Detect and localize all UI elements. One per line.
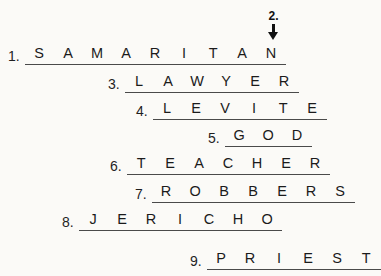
letter-cell: E (268, 181, 297, 203)
answer-row: 7.ROBBERS (135, 179, 355, 203)
letter-glyph: I (265, 248, 294, 268)
letter-glyph: B (239, 181, 268, 201)
letter-glyph: E (298, 98, 327, 118)
letter-cell: R (297, 181, 326, 203)
letter-glyph: N (257, 43, 286, 63)
answer-row-number: 3. (108, 76, 125, 93)
letter-glyph: A (228, 43, 257, 63)
letter-glyph: V (211, 98, 240, 118)
letter-cell: E (298, 98, 327, 120)
answer-row-number: 7. (135, 186, 152, 203)
letter-cell: S (323, 248, 352, 270)
letter-glyph: J (79, 209, 108, 229)
letter-glyph: T (199, 43, 228, 63)
letter-cell: I (166, 209, 195, 231)
letter-cell: O (253, 209, 282, 231)
letter-cell: E (241, 71, 270, 93)
letter-cell: R (137, 209, 166, 231)
letter-glyph: R (236, 248, 265, 268)
letter-cell: R (152, 181, 181, 203)
letter-glyph: L (153, 98, 182, 118)
letter-cell: D (283, 125, 312, 147)
letter-glyph: A (185, 153, 214, 173)
letter-glyph: E (156, 153, 185, 173)
answer-letters: LEVITE (153, 98, 327, 120)
letter-glyph: O (181, 181, 210, 201)
letter-cell: V (211, 98, 240, 120)
letter-cell: L (125, 71, 154, 93)
down-arrow-icon (268, 24, 279, 40)
letter-glyph: T (127, 153, 156, 173)
answer-letters: LAWYER (125, 71, 299, 93)
letter-glyph: E (272, 153, 301, 173)
letter-cell: G (225, 125, 254, 147)
answer-row-number: 6. (110, 158, 127, 175)
letter-glyph: G (225, 125, 254, 145)
letter-glyph: O (253, 209, 282, 229)
letter-cell: E (108, 209, 137, 231)
answer-letters: JERICHO (79, 209, 282, 231)
letter-cell: A (185, 153, 214, 175)
answer-letters: SAMARITAN (25, 43, 286, 65)
letter-cell: T (269, 98, 298, 120)
letter-cell: H (224, 209, 253, 231)
answer-letters: ROBBERS (152, 181, 355, 203)
letter-glyph: R (301, 153, 330, 173)
letter-cell: M (83, 43, 112, 65)
answer-letters: TEACHER (127, 153, 330, 175)
letter-glyph: R (141, 43, 170, 63)
letter-cell: A (228, 43, 257, 65)
answer-row: 4.LEVITE (136, 96, 327, 120)
letter-glyph: E (241, 71, 270, 91)
letter-glyph: C (195, 209, 224, 229)
clue-marker-label: 2. (268, 9, 278, 23)
letter-glyph: S (25, 43, 54, 63)
letter-glyph: E (268, 181, 297, 201)
letter-glyph: A (154, 71, 183, 91)
answer-row: 3.LAWYER (108, 69, 299, 93)
letter-glyph: R (137, 209, 166, 229)
letter-glyph: R (152, 181, 181, 201)
letter-glyph: L (125, 71, 154, 91)
letter-cell: E (156, 153, 185, 175)
letter-cell: E (294, 248, 323, 270)
letter-cell: I (240, 98, 269, 120)
answer-row: 6.TEACHER (110, 151, 330, 175)
letter-glyph: T (269, 98, 298, 118)
answer-row-number: 4. (136, 103, 153, 120)
letter-cell: B (210, 181, 239, 203)
letter-glyph: P (207, 248, 236, 268)
letter-cell: A (112, 43, 141, 65)
letter-cell: C (214, 153, 243, 175)
letter-cell: R (301, 153, 330, 175)
letter-glyph: C (214, 153, 243, 173)
letter-glyph: A (54, 43, 83, 63)
letter-glyph: E (182, 98, 211, 118)
letter-cell: R (270, 71, 299, 93)
letter-glyph: S (326, 181, 355, 201)
letter-glyph: R (270, 71, 299, 91)
letter-glyph: B (210, 181, 239, 201)
letter-cell: T (352, 248, 381, 270)
letter-glyph: O (254, 125, 283, 145)
answer-row-number: 9. (190, 253, 207, 270)
letter-glyph: I (166, 209, 195, 229)
letter-cell: I (265, 248, 294, 270)
letter-cell: E (182, 98, 211, 120)
letter-cell: A (154, 71, 183, 93)
letter-glyph: E (108, 209, 137, 229)
letter-glyph: D (283, 125, 312, 145)
answer-letters: GOD (225, 125, 312, 147)
letter-glyph: M (83, 43, 112, 63)
letter-glyph: I (240, 98, 269, 118)
answer-row-number: 1. (8, 48, 25, 65)
letter-cell: I (170, 43, 199, 65)
letter-cell: A (54, 43, 83, 65)
letter-cell: N (257, 43, 286, 65)
answer-row: 8.JERICHO (62, 207, 282, 231)
letter-cell: R (141, 43, 170, 65)
answer-row-number: 8. (62, 214, 79, 231)
letter-glyph: R (297, 181, 326, 201)
letter-cell: E (272, 153, 301, 175)
